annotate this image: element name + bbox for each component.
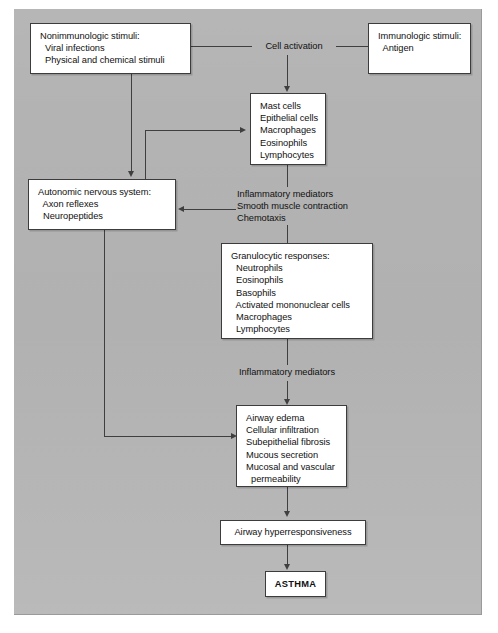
node-airway-hyperresponsiveness: Airway hyperresponsiveness [220, 520, 366, 545]
arrowhead-autonomic-to-cells [240, 127, 246, 133]
node-asthma: ASTHMA [265, 571, 326, 597]
connector-nonimmunologic-to-cell-activation [190, 46, 252, 47]
node-autonomic-nervous-system-text: Autonomic nervous system: Axon reflexes … [29, 180, 175, 229]
node-autonomic-nervous-system: Autonomic nervous system: Axon reflexes … [28, 179, 176, 230]
connector-hyperresponsiveness-to-asthma [287, 545, 288, 565]
connector-autonomic-feedback-horizontal [145, 130, 241, 131]
connector-autonomic-to-airway-horizontal [104, 436, 232, 437]
label-cell-activation: Cell activation [252, 40, 336, 52]
connector-mediators-upper-to-granulocytic [287, 225, 288, 245]
connector-mediators-lower-to-airway-changes [287, 381, 288, 400]
node-inflammatory-cells: Mast cells Epithelial cells Macrophages … [250, 93, 326, 165]
node-nonimmunologic-stimuli-text: Nonimmunologic stimuli: Viral infections… [31, 24, 190, 73]
node-airway-hyperresponsiveness-text: Airway hyperresponsiveness [221, 521, 365, 544]
arrowhead-nonimmunologic-to-autonomic [128, 171, 134, 177]
connector-mediators-upper-to-autonomic [184, 209, 236, 210]
diagram-panel: Nonimmunologic stimuli: Viral infections… [14, 9, 482, 615]
node-granulocytic-responses-text: Granulocytic responses: Neutrophils Eosi… [222, 244, 372, 341]
node-nonimmunologic-stimuli: Nonimmunologic stimuli: Viral infections… [30, 23, 191, 74]
node-immunologic-stimuli-text: Immunologic stimuli: Antigen [369, 24, 470, 60]
connector-cell-activation-to-cells [287, 55, 288, 87]
arrowhead-mediators-upper-to-autonomic [178, 206, 184, 212]
node-immunologic-stimuli: Immunologic stimuli: Antigen [368, 23, 471, 74]
connector-cells-to-mediators-upper [287, 165, 288, 187]
node-granulocytic-responses: Granulocytic responses: Neutrophils Eosi… [221, 243, 373, 339]
arrowhead-airway-changes-to-hyperresponsiveness [284, 511, 290, 517]
node-asthma-text: ASTHMA [266, 572, 325, 596]
arrowhead-cell-activation-to-cells [284, 86, 290, 92]
node-airway-changes-text: Airway edema Cellular infiltration Subep… [237, 406, 346, 491]
connector-autonomic-to-airway-vertical [104, 230, 105, 437]
label-inflammatory-mediators-upper: Inflammatory mediators Smooth muscle con… [237, 188, 348, 225]
node-inflammatory-cells-text: Mast cells Epithelial cells Macrophages … [251, 94, 325, 167]
connector-granulocytic-to-mediators-lower [287, 339, 288, 365]
connector-autonomic-feedback-vertical [145, 130, 146, 179]
flowchart-figure: Nonimmunologic stimuli: Viral infections… [0, 0, 498, 633]
connector-cell-activation-to-immunologic [336, 46, 368, 47]
arrowhead-hyperresponsiveness-to-asthma [284, 564, 290, 570]
label-inflammatory-mediators-lower: Inflammatory mediators [219, 366, 355, 378]
node-airway-changes: Airway edema Cellular infiltration Subep… [236, 405, 347, 487]
connector-nonimmunologic-to-autonomic [131, 74, 132, 172]
